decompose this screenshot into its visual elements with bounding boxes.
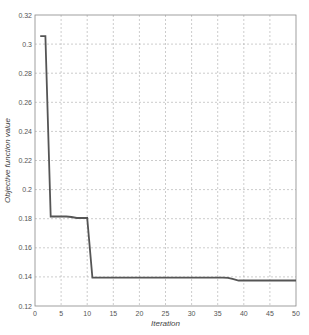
y-tick-label: 0.22 [18, 157, 32, 164]
y-tick-label: 0.12 [18, 303, 32, 310]
y-tick-label: 0.2 [22, 186, 32, 193]
x-tick-label: 5 [59, 310, 63, 317]
x-tick-label: 15 [109, 310, 117, 317]
x-tick-label: 20 [136, 310, 144, 317]
y-tick-label: 0.32 [18, 12, 32, 19]
x-tick-label: 30 [188, 310, 196, 317]
x-tick-label: 50 [292, 310, 300, 317]
y-axis-label: Objective function value [3, 117, 12, 202]
y-tick-label: 0.16 [18, 244, 32, 251]
y-tick-label: 0.3 [22, 41, 32, 48]
y-axis-ticks: 0.120.140.160.180.20.220.240.260.280.30.… [18, 12, 32, 310]
x-axis-ticks: 05101520253035404550 [33, 310, 300, 317]
y-tick-label: 0.24 [18, 128, 32, 135]
convergence-chart: 05101520253035404550 0.120.140.160.180.2… [0, 0, 309, 335]
x-axis-label: Iteration [151, 319, 180, 328]
x-tick-label: 35 [214, 310, 222, 317]
x-tick-label: 45 [266, 310, 274, 317]
x-tick-label: 10 [83, 310, 91, 317]
grid-lines [35, 15, 296, 306]
y-tick-label: 0.26 [18, 99, 32, 106]
x-tick-label: 0 [33, 310, 37, 317]
y-tick-label: 0.18 [18, 215, 32, 222]
objective-line [40, 36, 296, 280]
x-tick-label: 25 [162, 310, 170, 317]
x-tick-label: 40 [240, 310, 248, 317]
y-tick-label: 0.14 [18, 273, 32, 280]
y-tick-label: 0.28 [18, 70, 32, 77]
